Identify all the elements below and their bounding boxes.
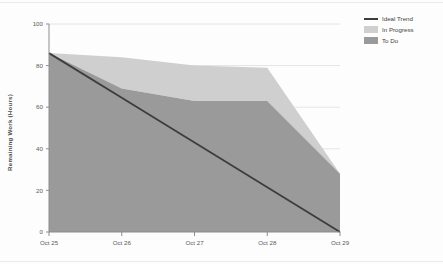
legend-label-in-progress: In Progress bbox=[382, 25, 414, 34]
x-tick-label-oct-28: Oct 28 bbox=[258, 239, 277, 246]
legend-swatch-to-do-icon bbox=[364, 37, 378, 44]
x-tick-label-oct-25: Oct 25 bbox=[40, 239, 59, 246]
y-tick-label-40: 40 bbox=[36, 145, 43, 152]
legend-swatch-in-progress-icon bbox=[364, 26, 378, 33]
legend-item-ideal-trend[interactable]: Ideal Trend bbox=[364, 14, 442, 23]
x-tick-label-oct-26: Oct 26 bbox=[113, 239, 132, 246]
x-tick-marks bbox=[49, 232, 340, 236]
x-tick-label-oct-27: Oct 27 bbox=[185, 239, 204, 246]
legend-item-in-progress[interactable]: In Progress bbox=[364, 25, 442, 34]
y-tick-label-0: 0 bbox=[40, 228, 44, 235]
legend-item-to-do[interactable]: To Do bbox=[364, 36, 442, 45]
chart-canvas: 100 80 60 40 20 0 Oct 25 Oct 26 Oct 27 O… bbox=[0, 0, 443, 264]
legend-label-ideal-trend: Ideal Trend bbox=[382, 14, 413, 23]
y-tick-label-60: 60 bbox=[36, 103, 43, 110]
y-tick-label-80: 80 bbox=[36, 62, 43, 69]
legend-label-to-do: To Do bbox=[382, 36, 398, 45]
x-tick-label-oct-29: Oct 29 bbox=[331, 239, 350, 246]
y-tick-label-20: 20 bbox=[36, 187, 43, 194]
y-tick-label-100: 100 bbox=[33, 20, 44, 27]
legend-swatch-ideal-trend-icon bbox=[364, 18, 378, 20]
chart-legend: Ideal Trend In Progress To Do bbox=[364, 14, 442, 47]
